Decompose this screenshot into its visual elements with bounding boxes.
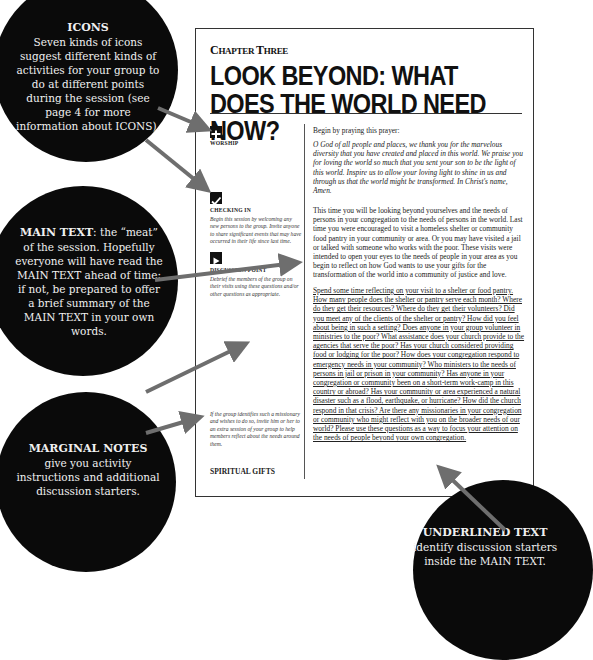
- underlined-text-callout-text: UNDERLINED TEXT identify discussion star…: [400, 526, 570, 568]
- column-divider: [304, 124, 305, 479]
- icons-callout: ICONS Seven kinds of icons suggest diffe…: [0, 0, 178, 162]
- discussion-point-note: Debrief the members of the group on thei…: [210, 276, 302, 298]
- checking-in-note: Begin this session by welcoming any new …: [210, 216, 302, 246]
- worship-intro: Begin by praying this prayer:: [313, 126, 525, 135]
- workbook-page: CHAPTER THREE LOOK BEYOND: WHAT DOES THE…: [195, 28, 534, 497]
- checking-in-main-text: This time you will be looking beyond you…: [313, 206, 525, 280]
- worship-prayer: O God of all people and places, we thank…: [313, 140, 525, 195]
- checking-in-label: CHECKING IN: [210, 207, 251, 213]
- discussion-main-text: Spend some time reflecting on your visit…: [313, 286, 525, 442]
- underlined-text-callout: [413, 480, 593, 660]
- footer-section-label: SPIRITUAL GIFTS: [210, 467, 275, 476]
- marginal-notes-callout: MARGINAL NOTES give you activity instruc…: [0, 392, 176, 572]
- chapter-label: CHAPTER THREE: [210, 43, 288, 58]
- checkmark-icon: [210, 192, 222, 204]
- worship-label: WORSHIP: [210, 140, 238, 146]
- play-icon: [210, 252, 222, 264]
- missionary-note: If the group identifies such a missionar…: [210, 411, 302, 448]
- discussion-point-label: DISCUSSION POINT: [210, 267, 267, 273]
- title-rule: [210, 113, 522, 114]
- main-text-callout: MAIN TEXT: the “meat” of the session. Ho…: [0, 186, 178, 376]
- cross-icon: [210, 126, 222, 138]
